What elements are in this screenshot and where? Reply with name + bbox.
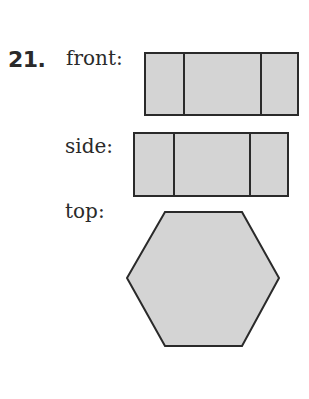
top-view-hexagon: [127, 212, 279, 346]
front-view: [145, 53, 298, 115]
front-view-rectangle: [145, 53, 298, 115]
side-view-rectangle: [134, 133, 288, 196]
top-view: [127, 212, 279, 346]
orthographic-views-figure: [0, 0, 309, 399]
side-view: [134, 133, 288, 196]
